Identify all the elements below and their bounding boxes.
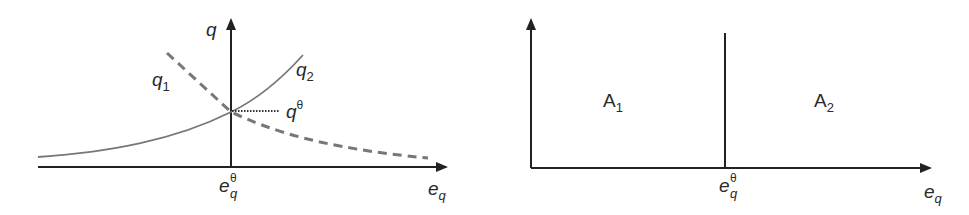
region-a1-label: A1 — [603, 90, 623, 115]
left-diagram: q q1 q2 qθ e q θ eq — [38, 19, 447, 203]
curve-q1-label: q1 — [152, 69, 170, 94]
divider-e-label: e — [719, 175, 730, 196]
right-diagram: A1 A2 e q θ eq — [531, 20, 943, 206]
curve-q2 — [38, 55, 303, 157]
divider-e-sup: θ — [730, 171, 737, 185]
equilibrium-q-label: qθ — [286, 98, 304, 122]
divider-e-sub: q — [730, 186, 738, 201]
curve-q2-label: q2 — [296, 59, 314, 84]
right-x-axis-label: eq — [924, 181, 943, 206]
diagram-canvas: q q1 q2 qθ e q θ eq A1 A2 e q θ eq — [0, 0, 969, 215]
equilibrium-e-sup: θ — [230, 171, 237, 185]
region-a2-label: A2 — [814, 90, 834, 115]
left-y-axis-label: q — [206, 19, 217, 40]
left-x-axis-label: eq — [428, 178, 447, 203]
equilibrium-e-label: e — [219, 175, 230, 196]
equilibrium-e-sub: q — [230, 186, 238, 201]
